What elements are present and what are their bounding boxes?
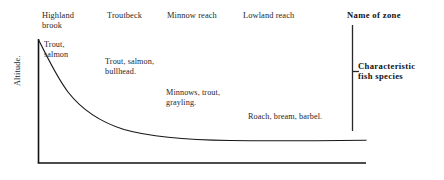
zone-header-highland-brook: Highland brook [42, 11, 74, 30]
legend-title-name-of-zone: Name of zone [347, 10, 401, 20]
y-axis-label: Altitude. [13, 26, 23, 86]
river-zonation-diagram: Altitude. Highland brook Troutbeck Minno… [0, 0, 444, 180]
species-list-troutbeck: Trout, salmon, bullhead. [105, 57, 154, 76]
zone-header-lowland-reach: Lowland reach [243, 11, 294, 21]
legend-title-characteristic-fish-species: Characteristic fish species [358, 61, 415, 82]
species-list-highland-brook: Trout, salmon [44, 40, 68, 59]
zone-header-minnow-reach: Minnow reach [167, 11, 217, 21]
species-list-minnow-reach: Minnows, trout, grayling. [166, 88, 220, 107]
species-list-lowland-reach: Roach, bream, barbel. [248, 112, 322, 122]
zone-header-troutbeck: Troutbeck [107, 11, 142, 21]
